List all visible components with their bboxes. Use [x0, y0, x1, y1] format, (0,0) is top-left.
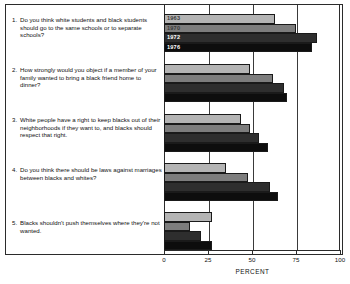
question-number: 4.	[12, 166, 17, 181]
question-5: 5.Blacks shouldn't push themselves where…	[12, 219, 162, 234]
bar-1970-q5	[164, 222, 190, 232]
legend-label-1972: 1972	[167, 33, 180, 42]
question-number: 2.	[12, 66, 17, 89]
x-axis-title: PERCENT	[164, 268, 341, 275]
bar-1976-q5	[164, 241, 212, 251]
x-tick-label-50: 50	[249, 256, 256, 263]
x-tick-label-25: 25	[205, 256, 212, 263]
x-tick-label-100: 100	[335, 256, 345, 263]
x-tick-0	[164, 250, 165, 254]
x-tick-75	[296, 250, 297, 254]
question-2: 2.How strongly would you object if a mem…	[12, 66, 162, 89]
question-3: 3.White people have a right to keep blac…	[12, 116, 162, 139]
bar-1963-q4	[164, 163, 226, 173]
question-number: 3.	[12, 116, 17, 139]
x-tick-100	[340, 250, 341, 254]
bar-1972-q1	[164, 33, 317, 43]
bar-1970-q4	[164, 173, 248, 183]
legend-label-1976: 1976	[167, 43, 180, 52]
x-tick-label-75: 75	[293, 256, 300, 263]
bar-group-1: 1963197019721976	[164, 14, 340, 52]
bar-1963-q2	[164, 64, 250, 74]
bar-1976-q4	[164, 192, 278, 202]
legend-label-1970: 1970	[167, 24, 180, 33]
question-label-column: 1.Do you think white students and black …	[0, 0, 164, 284]
question-text: How strongly would you object if a membe…	[20, 66, 162, 89]
bar-group-5	[164, 212, 340, 250]
question-text: Blacks shouldn't push themselves where t…	[20, 219, 162, 234]
question-4: 4.Do you think there should be laws agai…	[12, 166, 162, 181]
bar-1976-q3	[164, 143, 268, 153]
question-number: 1.	[12, 16, 17, 39]
question-number: 5.	[12, 219, 17, 234]
legend-label-1963: 1963	[167, 14, 180, 23]
bar-1970-q1	[164, 24, 296, 34]
question-text: White people have a right to keep blacks…	[20, 116, 162, 139]
x-tick-25	[208, 250, 209, 254]
bar-1976-q1	[164, 43, 312, 53]
bar-group-4	[164, 163, 340, 201]
question-text: Do you think white students and black st…	[20, 16, 162, 39]
bar-1970-q3	[164, 124, 250, 134]
bar-1972-q3	[164, 133, 259, 143]
bar-1972-q2	[164, 83, 284, 93]
survey-bar-chart: 1.Do you think white students and black …	[0, 0, 350, 284]
bar-1976-q2	[164, 93, 287, 103]
bar-1970-q2	[164, 74, 273, 84]
x-tick-50	[252, 250, 253, 254]
bar-group-2	[164, 64, 340, 102]
bar-1963-q3	[164, 114, 241, 124]
bar-1963-q5	[164, 212, 212, 222]
bar-1972-q5	[164, 231, 201, 241]
question-text: Do you think there should be laws agains…	[20, 166, 162, 181]
bar-1972-q4	[164, 182, 270, 192]
x-tick-label-0: 0	[162, 256, 165, 263]
question-1: 1.Do you think white students and black …	[12, 16, 162, 39]
bar-1963-q1	[164, 14, 275, 24]
bar-group-3	[164, 114, 340, 152]
